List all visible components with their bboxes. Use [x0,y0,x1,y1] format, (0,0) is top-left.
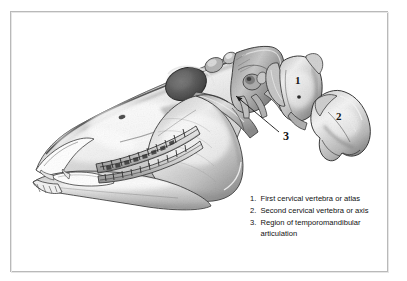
legend: 1. First cervical vertebra or atlas 2. S… [250,193,382,240]
legend-item-text: Second cervical vertebra or axis [261,205,383,216]
legend-item-text: Region of temporomandibular articulation [261,217,383,239]
callout-number-3: 3 [283,129,289,144]
legend-item-text: First cervical vertebra or atlas [261,193,383,204]
figure-root: 1 2 3 1. First cervical vertebra or atla… [0,0,407,281]
callout-number-2: 2 [336,110,342,122]
legend-item: 1. First cervical vertebra or atlas [250,193,382,204]
legend-item-number: 2. [250,205,256,216]
legend-item: 3. Region of temporomandibular articulat… [250,217,382,239]
legend-item-number: 1. [250,193,256,204]
legend-item: 2. Second cervical vertebra or axis [250,205,382,216]
legend-item-number: 3. [250,217,256,228]
axis-vertebra [311,90,371,160]
callout-number-1: 1 [295,74,301,86]
